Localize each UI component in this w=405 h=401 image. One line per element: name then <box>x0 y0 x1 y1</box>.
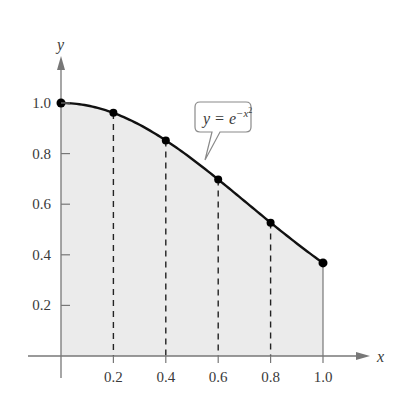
y-tick-label: 0.4 <box>32 247 51 263</box>
function-plot: 0.20.40.60.81.00.20.40.60.81.0 y x y = e… <box>0 0 405 401</box>
x-axis-arrow-icon <box>356 352 370 360</box>
data-point <box>319 258 328 267</box>
y-tick-label: 0.2 <box>32 297 51 313</box>
y-tick-label: 1.0 <box>32 95 51 111</box>
x-tick-label: 0.8 <box>261 369 280 385</box>
x-tick-label: 0.2 <box>104 369 123 385</box>
data-point <box>214 175 222 183</box>
data-point <box>162 136 170 144</box>
y-tick-label: 0.6 <box>32 196 51 212</box>
x-tick-label: 0.6 <box>209 369 228 385</box>
x-axis-label: x <box>376 348 384 365</box>
data-point <box>267 219 275 227</box>
y-tick-label: 0.8 <box>32 146 51 162</box>
y-axis-arrow-icon <box>57 56 65 70</box>
area-under-curve <box>61 103 323 356</box>
x-tick-label: 1.0 <box>314 369 333 385</box>
shaded-area <box>61 103 323 356</box>
x-tick-label: 0.4 <box>156 369 175 385</box>
function-callout: y = e−x2 <box>195 102 252 160</box>
y-axis-label: y <box>55 36 65 54</box>
data-point <box>109 109 117 117</box>
